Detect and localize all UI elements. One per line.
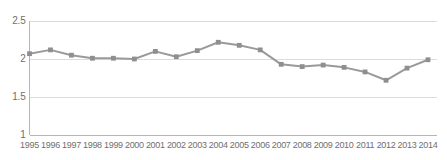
data-series-line	[30, 42, 429, 80]
y-tick-label-1.5: 1.5	[12, 92, 25, 102]
data-point-2007	[279, 62, 284, 67]
y-tick-label-2: 2	[20, 54, 25, 64]
data-point-1999	[111, 56, 116, 61]
data-point-markers	[27, 40, 430, 83]
axis-lines	[30, 21, 438, 135]
data-point-2012	[384, 78, 389, 83]
series-line	[30, 42, 429, 80]
data-point-2010	[342, 65, 347, 70]
data-point-1997	[69, 53, 74, 58]
line-chart: 11.522.5 1995199619971998199920002001200…	[0, 0, 447, 160]
data-point-1996	[48, 47, 53, 52]
x-tick-label-2014: 2014	[412, 141, 444, 150]
data-point-1995	[27, 51, 32, 56]
y-tick-label-2.5: 2.5	[12, 16, 25, 26]
y-tick-label-1: 1	[20, 130, 25, 140]
data-point-2006	[258, 47, 263, 52]
data-point-2002	[174, 54, 179, 59]
gridlines	[30, 21, 438, 135]
data-point-2004	[216, 40, 221, 45]
data-point-2014	[426, 57, 431, 62]
data-point-1998	[90, 56, 95, 61]
data-point-2005	[237, 43, 242, 48]
data-point-2008	[300, 64, 305, 69]
plot-area	[0, 0, 447, 160]
data-point-2000	[132, 57, 137, 62]
data-point-2011	[363, 70, 368, 75]
data-point-2001	[153, 49, 158, 54]
data-point-2009	[321, 63, 326, 68]
data-point-2003	[195, 48, 200, 53]
data-point-2013	[405, 66, 410, 71]
